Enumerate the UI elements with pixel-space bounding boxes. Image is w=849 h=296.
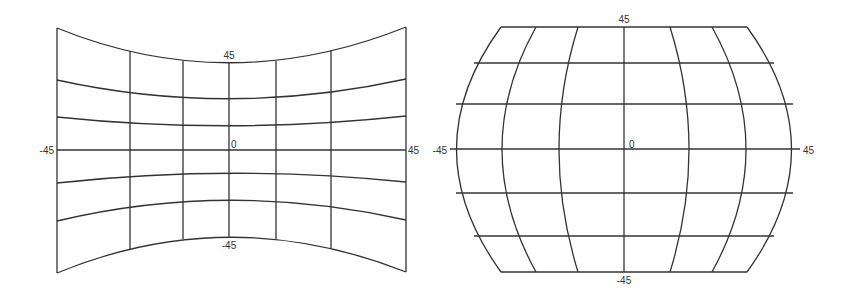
axis-label: -45 (433, 145, 448, 156)
parallel-line (57, 200, 406, 221)
axis-label: 0 (629, 139, 635, 150)
concave-graticule (57, 27, 406, 273)
axis-label: -45 (222, 240, 237, 251)
axis-label: -45 (617, 275, 632, 286)
convex-graticule (450, 27, 800, 272)
axis-label: -45 (40, 145, 55, 156)
axis-label: 45 (618, 14, 630, 25)
map-projection-diagram: 450-4545-45 450-4545-45 (0, 0, 849, 296)
parallel-line (57, 79, 406, 99)
axis-label: 45 (223, 50, 235, 61)
axis-label: 45 (803, 145, 815, 156)
axis-label: 45 (408, 145, 420, 156)
parallel-line (57, 116, 406, 126)
parallel-line (57, 173, 406, 183)
concave-projection-panel: 450-4545-45 (40, 27, 420, 273)
convex-projection-panel: 450-4545-45 (433, 14, 815, 286)
axis-label: 0 (231, 139, 237, 150)
